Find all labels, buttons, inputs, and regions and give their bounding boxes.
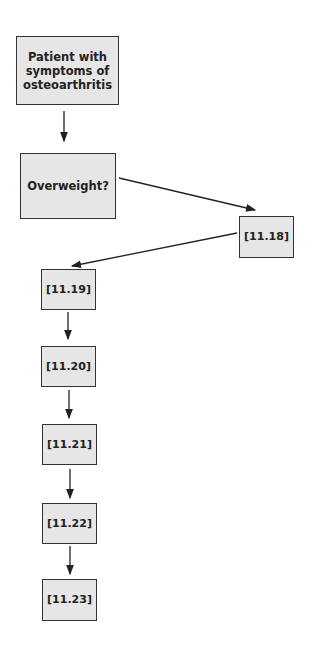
node-11-21: [11.21]	[42, 424, 97, 465]
node-patient-symptoms: Patient with symptoms of osteoarthritis	[16, 36, 119, 105]
node-label: [11.21]	[47, 438, 92, 452]
node-11-20: [11.20]	[41, 346, 96, 387]
node-label: Overweight?	[27, 179, 109, 193]
node-label: [11.18]	[244, 230, 289, 244]
node-11-23: [11.23]	[42, 579, 97, 621]
node-label: Patient with symptoms of osteoarthritis	[17, 50, 118, 92]
node-11-19: [11.19]	[41, 269, 96, 310]
node-11-18: [11.18]	[239, 216, 294, 258]
node-label: [11.20]	[46, 360, 91, 374]
node-overweight-decision: Overweight?	[20, 153, 116, 219]
node-label: [11.23]	[47, 593, 92, 607]
node-label: [11.19]	[46, 283, 91, 297]
node-label: [11.22]	[47, 517, 92, 531]
node-11-22: [11.22]	[42, 503, 97, 544]
